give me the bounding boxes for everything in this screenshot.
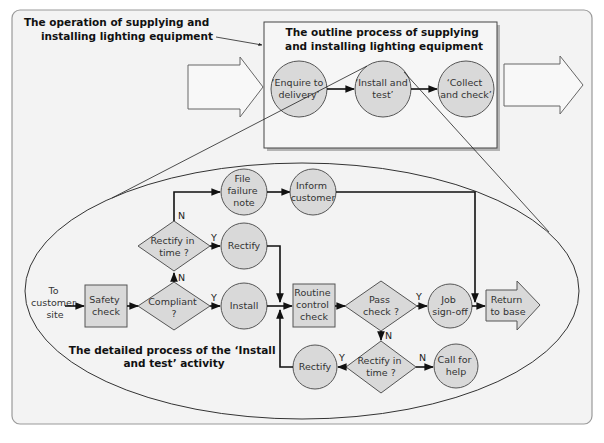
node-rectify-bottom: Rectify [293,345,337,389]
label-yes: Y [415,291,422,302]
node-safety-check: Safety check [85,285,127,327]
svg-text:Inform customer: Inform customer [291,180,336,203]
svg-text:‘Enquire to delivery’: ‘Enquire to delivery’ [272,77,327,100]
node-routine-control-check: Routine control check [293,284,335,327]
label-no: N [419,352,426,363]
outline-node-enquire-to-delivery: ‘Enquire to delivery’ [271,61,327,117]
label-no: N [178,210,185,221]
node-install: Install [221,283,267,329]
svg-text:Install: Install [230,300,259,311]
label-no: N [385,330,392,341]
label-yes: Y [210,232,217,243]
diagram-canvas: The operation of supplying and installin… [0,0,604,443]
svg-text:‘Collect and check’: ‘Collect and check’ [440,77,492,100]
svg-text:Return to base: Return to base [490,294,525,317]
label-yes: Y [338,352,345,363]
node-rectify-top: Rectify [221,223,267,269]
label-no: N [178,272,185,283]
label-yes: Y [210,292,217,303]
outline-node-collect-and-check: ‘Collect and check’ [438,61,494,117]
svg-text:Safety check: Safety check [89,294,122,317]
node-inform-customer: Inform customer [290,169,336,215]
svg-text:Rectify: Rectify [228,240,261,251]
svg-text:Routine control ch: Routine control check [294,287,333,322]
node-file-failure-note: File failure note [221,169,267,215]
svg-text:Rectify: Rectify [299,361,332,372]
node-call-for-help: Call for help [434,344,478,388]
outline-node-install-and-test: ‘Install and test’ [355,61,411,117]
node-job-sign-off: Job sign-off [428,284,472,328]
